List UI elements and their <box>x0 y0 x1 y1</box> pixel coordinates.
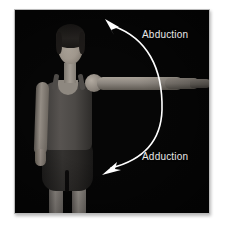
photograph: Abduction Adduction <box>15 10 209 213</box>
label-adduction: Adduction <box>142 151 188 162</box>
motion-arc-arrow <box>15 10 209 213</box>
abduction-arrowhead-icon <box>105 19 119 35</box>
figure-root: Abduction Adduction <box>0 0 225 228</box>
adduction-arrowhead-icon <box>102 162 121 175</box>
motion-arc-path <box>111 26 162 168</box>
label-abduction: Abduction <box>142 29 188 40</box>
